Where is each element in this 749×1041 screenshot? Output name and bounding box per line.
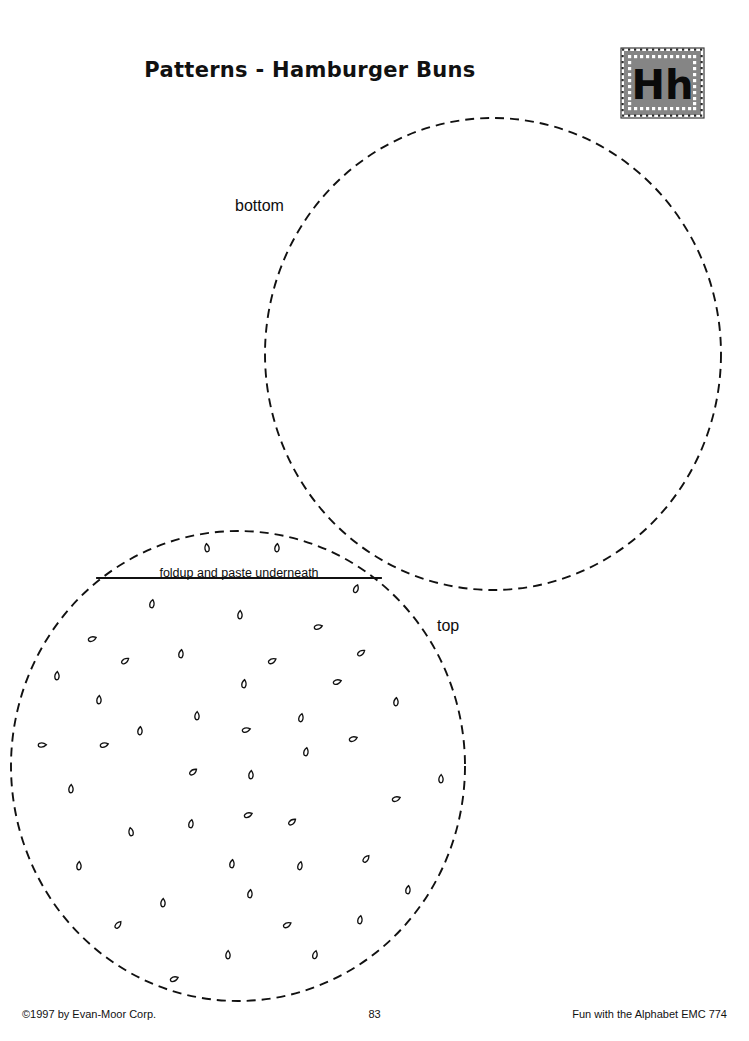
sesame-seed — [188, 819, 193, 828]
worksheet-page: Patterns - Hamburger Buns — [0, 0, 749, 1041]
sesame-seed — [247, 889, 252, 898]
sesame-seed — [204, 543, 209, 552]
letter-badge-graphic: Hh — [620, 47, 705, 119]
sesame-seed-outline — [247, 889, 252, 898]
sesame-seed — [303, 747, 308, 756]
sesame-seed-outline — [333, 679, 342, 685]
sesame-seed-outline — [283, 921, 292, 928]
sesame-seed — [314, 624, 323, 630]
sesame-seed-outline — [298, 713, 304, 722]
sesame-seed-outline — [405, 885, 410, 894]
sesame-seed — [394, 697, 399, 706]
bottom-bun-label: bottom — [235, 197, 284, 215]
badge-letter-text: Hh — [632, 62, 694, 108]
page-title: Patterns - Hamburger Buns — [0, 58, 620, 82]
page-footer: ©1997 by Evan-Moor Corp. 83 Fun with the… — [0, 1008, 749, 1030]
sesame-seed — [100, 742, 109, 748]
sesame-seed-outline — [195, 712, 199, 720]
sesame-seed — [226, 951, 230, 959]
sesame-seed — [392, 796, 401, 803]
top-bun-outline — [11, 531, 465, 1001]
sesame-seed — [229, 859, 234, 868]
sesame-seed-outline — [88, 636, 97, 643]
top-bun-label: top — [437, 617, 459, 635]
sesame-seed-outline — [394, 697, 399, 706]
sesame-seed-outline — [297, 861, 303, 870]
sesame-seed — [189, 768, 198, 776]
sesame-seed — [38, 743, 46, 747]
sesame-seed — [288, 818, 297, 826]
sesame-seed — [128, 827, 133, 836]
sesame-seed-outline — [357, 649, 366, 657]
sesame-seed-outline — [77, 861, 82, 869]
sesame-seed-outline — [138, 726, 143, 735]
sesame-seed-outline — [178, 649, 183, 658]
sesame-seed-outline — [38, 743, 46, 747]
sesame-seed-outline — [149, 599, 154, 608]
sesame-seed — [138, 726, 143, 735]
sesame-seed — [238, 610, 243, 618]
sesame-seed — [170, 975, 179, 982]
sesame-seed-outline — [249, 770, 254, 778]
bottom-bun-outline — [265, 118, 721, 590]
sesame-seed-outline — [241, 679, 246, 688]
sesame-seed-outline — [161, 898, 166, 906]
sesame-seed — [312, 950, 318, 959]
sesame-seed — [88, 636, 97, 643]
sesame-seed — [241, 679, 246, 688]
sesame-seed-outline — [170, 975, 179, 982]
sesame-seed-outline — [362, 854, 370, 863]
sesame-seed — [244, 811, 253, 818]
sesame-seed — [149, 599, 154, 608]
sesame-seed — [362, 854, 370, 863]
sesame-seed-outline — [114, 920, 122, 929]
sesame-seed-outline — [189, 768, 198, 776]
footer-series-title: Fun with the Alphabet EMC 774 — [572, 1008, 727, 1020]
sesame-seed — [242, 727, 251, 733]
sesame-seed-outline — [244, 811, 253, 818]
sesame-seed — [55, 671, 60, 679]
sesame-seed — [268, 657, 277, 664]
sesame-seed-outline — [188, 819, 193, 828]
sesame-seed — [121, 657, 130, 665]
sesame-seed — [195, 712, 199, 720]
sesame-seed-outline — [242, 727, 251, 733]
sesame-seed — [283, 921, 292, 928]
sesame-seed — [97, 695, 102, 703]
sesame-seed — [439, 775, 443, 783]
sesame-seed — [275, 543, 280, 552]
sesame-seed-outline — [268, 657, 277, 664]
sesame-seed-group — [38, 543, 443, 982]
sesame-seed-outline — [392, 796, 401, 803]
sesame-seed-outline — [121, 657, 130, 665]
sesame-seed — [298, 713, 304, 722]
sesame-seed — [249, 770, 254, 778]
sesame-seed — [405, 885, 410, 894]
sesame-seed-outline — [238, 610, 243, 618]
sesame-seed-outline — [69, 784, 74, 792]
sesame-seed-outline — [55, 671, 60, 679]
sesame-seed-outline — [97, 695, 102, 703]
sesame-seed-outline — [128, 827, 133, 836]
sesame-seed-outline — [439, 775, 443, 783]
sesame-seed — [161, 898, 166, 906]
sesame-seed-outline — [229, 859, 234, 868]
sesame-seed — [77, 861, 82, 869]
sesame-seed — [357, 915, 362, 924]
sesame-seed-outline — [100, 742, 109, 748]
sesame-seed-outline — [349, 736, 358, 743]
sesame-seed — [353, 584, 360, 593]
sesame-seed-outline — [226, 951, 230, 959]
sesame-seed-outline — [357, 915, 362, 924]
sesame-seed-outline — [204, 543, 209, 552]
sesame-seed-outline — [312, 950, 318, 959]
sesame-seed-outline — [303, 747, 308, 756]
sesame-seed-outline — [275, 543, 280, 552]
sesame-seed-outline — [314, 624, 323, 630]
fold-instruction-label: foldup and paste underneath — [97, 566, 381, 580]
sesame-seed — [357, 649, 366, 657]
sesame-seed-outline — [288, 818, 297, 826]
letter-h-badge: Hh — [620, 47, 705, 119]
sesame-seed — [69, 784, 74, 792]
sesame-seed — [297, 861, 303, 870]
